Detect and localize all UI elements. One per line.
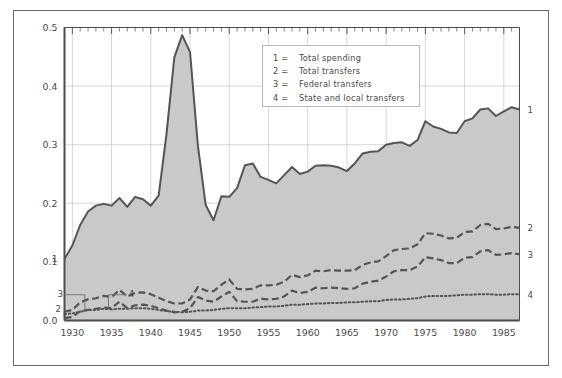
series-start-label-3: 3	[58, 289, 63, 299]
chart-figure: 0.00.10.20.30.40.51930193519401945195019…	[0, 0, 562, 378]
y-tick-label-4: 0.4	[43, 81, 58, 92]
legend-entry-3: 3 =Federal transfers	[273, 78, 419, 91]
legend-label-2: Total transfers	[299, 66, 360, 76]
y-tick-label-5: 0.5	[43, 22, 58, 33]
x-tick-label-7: 1965	[335, 327, 359, 338]
series-end-label-3: 3	[528, 250, 533, 260]
legend-key-1: 1 =	[273, 52, 299, 65]
y-tick-label-2: 0.2	[43, 198, 58, 209]
series-start-label-4: 4	[129, 289, 134, 299]
x-tick-label-9: 1975	[413, 327, 437, 338]
legend-entry-1: 1 =Total spending	[273, 52, 419, 65]
series-start-label-2: 2	[56, 304, 61, 314]
x-tick-label-5: 1955	[257, 327, 281, 338]
x-tick-label-1: 1935	[100, 327, 124, 338]
x-tick-label-4: 1950	[217, 327, 241, 338]
x-tick-label-0: 1930	[60, 327, 84, 338]
legend-label-1: Total spending	[299, 53, 361, 63]
x-tick-label-6: 1960	[296, 327, 320, 338]
series-start-label-1: 1	[52, 254, 57, 264]
x-tick-label-11: 1985	[492, 327, 516, 338]
x-tick-label-10: 1980	[453, 327, 477, 338]
legend-key-2: 2 =	[273, 65, 299, 78]
legend-label-4: State and local transfers	[299, 93, 405, 103]
x-tick-label-2: 1940	[139, 327, 163, 338]
legend-key-4: 4 =	[273, 92, 299, 105]
x-tick-label-3: 1945	[178, 327, 202, 338]
series-end-label-1: 1	[528, 105, 533, 115]
legend-label-3: Federal transfers	[299, 79, 372, 89]
series-end-label-4: 4	[528, 290, 533, 300]
chart-legend: 1 =Total spending 2 =Total transfers 3 =…	[262, 45, 420, 107]
legend-key-3: 3 =	[273, 78, 299, 91]
series-end-label-2: 2	[528, 223, 533, 233]
x-tick-label-8: 1970	[374, 327, 398, 338]
y-tick-label-0: 0.0	[43, 315, 58, 326]
legend-entry-2: 2 =Total transfers	[273, 65, 419, 78]
legend-entry-4: 4 =State and local transfers	[273, 92, 419, 105]
y-tick-label-3: 0.3	[43, 139, 58, 150]
